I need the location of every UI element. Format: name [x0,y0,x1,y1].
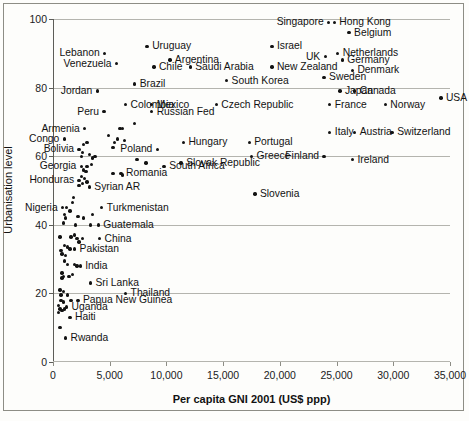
data-point-unlabeled [77,184,80,187]
data-point [439,96,442,99]
x-tick-label: 10,000 [150,369,182,381]
x-tick-mark [166,362,167,366]
data-point-label: Venezuela [63,58,111,68]
data-point [341,58,344,61]
data-point-label: Guatemala [103,220,153,230]
data-point-label: Bolivia [44,144,74,154]
data-point-unlabeled [57,311,60,314]
data-point-label: Syrian AR [94,182,140,192]
data-point-label: France [335,100,367,110]
data-point-unlabeled [60,276,63,279]
data-point-unlabeled [116,137,119,140]
data-point-label: Turkmenistan [107,202,169,212]
data-point-unlabeled [84,170,87,173]
data-point [324,55,327,58]
data-point-unlabeled [111,146,114,149]
data-point [77,148,80,151]
data-point [88,185,91,188]
data-point [119,172,122,175]
data-point-unlabeled [85,180,88,183]
data-point-unlabeled [90,163,93,166]
data-point-unlabeled [66,263,69,266]
data-point [61,206,64,209]
data-point [83,127,86,130]
data-point [225,79,228,82]
data-point-unlabeled [123,139,126,142]
x-tick-label: 5,000 [97,369,123,381]
y-tick-label: 100 [29,13,47,25]
data-point-label: Uruguay [152,41,191,51]
data-point [336,52,339,55]
data-point-unlabeled [76,215,79,218]
data-point-unlabeled [63,259,66,262]
data-point [96,89,99,92]
x-tick-label: 0 [50,369,56,381]
data-point-unlabeled [58,326,61,329]
data-point [103,52,106,55]
y-tick-label: 0 [41,356,47,368]
data-point-unlabeled [82,216,85,219]
data-point [338,89,341,92]
data-point-label: South Africa [169,161,225,171]
data-point-label: Switzerland [397,127,450,137]
data-point [124,103,127,106]
data-point-unlabeled [68,209,71,212]
data-point-unlabeled [85,141,88,144]
data-point [189,65,192,68]
data-point-unlabeled [58,288,61,291]
data-point-unlabeled [72,196,75,199]
data-point [73,247,76,250]
data-point [65,305,68,308]
data-point [152,65,155,68]
data-point-label: Georgia [40,161,77,171]
data-point-label: Rwanda [70,333,108,343]
data-point-label: Sweden [329,72,366,82]
data-point-label: Brazil [140,79,166,89]
data-point [98,237,101,240]
data-point [63,137,66,140]
x-tick-label: 35,000 [434,369,466,381]
data-point [347,31,350,34]
data-point-unlabeled [133,122,136,125]
data-point [253,192,256,195]
y-axis-line [53,19,54,362]
y-tick-label: 20 [35,287,47,299]
data-point [384,103,387,106]
data-point-unlabeled [91,213,94,216]
data-point-label: Poland [120,144,152,154]
data-point-label: Jordan [61,86,92,96]
data-point [327,21,330,24]
y-tick-label: 40 [35,219,47,231]
data-point [333,21,336,24]
y-axis-title: Urbanisation level [2,146,14,233]
data-point-unlabeled [82,143,85,146]
data-point-label: South Korea [232,76,289,86]
data-point [322,76,325,79]
data-point-label: Finland [285,151,319,161]
data-point-label: Peru [77,106,99,116]
data-point-unlabeled [62,300,65,303]
data-point-unlabeled [59,293,62,296]
data-point-unlabeled [66,293,69,296]
data-point [145,45,148,48]
x-tick-label: 20,000 [264,369,296,381]
data-point-label: Nigeria [25,202,58,212]
data-point-label: Pakistan [80,244,120,254]
data-point-label: Canada [360,86,396,96]
data-point-label: Italy [335,127,354,137]
data-point-label: Honduras [29,175,74,185]
data-point [182,141,185,144]
x-tick-label: 30,000 [377,369,409,381]
x-tick-label: 25,000 [321,369,353,381]
data-point-unlabeled [111,172,114,175]
data-point [270,65,273,68]
data-point-label: India [85,261,107,271]
data-point-unlabeled [144,161,147,164]
y-tick-mark [49,293,54,294]
data-point-label: Hungary [188,137,227,147]
data-point [115,62,118,65]
data-point-unlabeled [89,223,92,226]
data-point-label: Czech Republic [221,100,293,110]
data-point-unlabeled [64,216,67,219]
x-tick-mark [393,362,394,366]
